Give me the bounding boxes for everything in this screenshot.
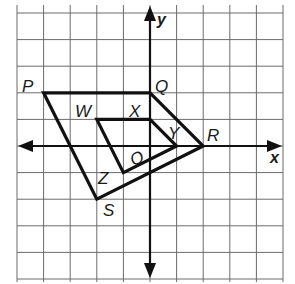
vertex-label-r: R [207,126,219,145]
vertex-label-w: W [75,102,93,121]
vertex-label-p: P [22,77,34,96]
vertex-label-x: X [128,102,141,121]
vertex-label-q: Q [155,77,168,96]
y-axis-label: y [156,11,167,28]
vertex-label-y: Y [168,124,181,143]
vertex-label-s: S [103,201,115,220]
x-axis-label: x [269,149,280,166]
origin-label: O [127,147,147,170]
vertex-label-z: Z [97,169,109,188]
coordinate-plane: y x O P Q R S W X Y Z [0,0,295,284]
